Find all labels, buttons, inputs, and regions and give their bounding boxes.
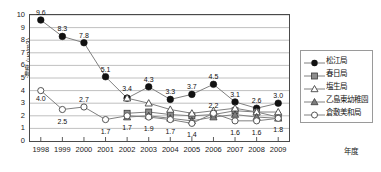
data-label-kurashiki-miwa: 2.2	[201, 102, 225, 109]
y-tick-label: 7	[9, 49, 25, 57]
legend-label: 倉敷美和局	[325, 108, 361, 117]
data-label-matsue: 4.5	[201, 73, 225, 80]
data-label-matsue: 3.0	[266, 92, 290, 99]
data-label-matsue: 3.7	[180, 83, 204, 90]
legend-open-circle-icon	[304, 107, 325, 119]
data-label-matsue: 3.1	[223, 91, 247, 98]
data-label-kurashiki-miwa: 1.4	[180, 131, 204, 138]
y-tick-label: 9	[9, 24, 25, 32]
chart-container: 濃度 (μg/m3) 012345678910 9.68.37.85.13.44…	[0, 0, 381, 172]
legend-filled-triangle-icon	[304, 94, 325, 106]
chart-legend: 松江局春日局塩生局乙島東幼稚園倉敷美和局	[300, 50, 373, 123]
data-label-kurashiki-miwa: 1.8	[266, 126, 290, 133]
legend-label: 春日局	[325, 69, 347, 78]
y-tick-label: 0	[9, 137, 25, 145]
y-tick-label: 5	[9, 74, 25, 82]
y-tick-label: 10	[9, 11, 25, 19]
y-tick-label: 1	[9, 124, 25, 132]
legend-open-triangle-icon	[304, 81, 325, 93]
legend-filled-square-icon	[304, 68, 325, 80]
data-label-kurashiki-miwa: 2.7	[72, 96, 96, 103]
legend-item[interactable]: 春日局	[304, 67, 368, 80]
legend-item[interactable]: 塩生局	[304, 80, 368, 93]
data-label-kurashiki-miwa: 1.6	[223, 129, 247, 136]
legend-label: 松江局	[325, 56, 347, 65]
legend-item[interactable]: 松江局	[304, 54, 368, 67]
y-tick-label: 4	[9, 87, 25, 95]
data-label-kurashiki-miwa: 1.9	[137, 125, 161, 132]
legend-label: 塩生局	[325, 82, 347, 91]
legend-label: 乙島東幼稚園	[325, 95, 368, 104]
data-label-kurashiki-miwa: 1.7	[115, 124, 139, 131]
legend-item[interactable]: 乙島東幼稚園	[304, 93, 368, 106]
data-label-kurashiki-miwa: 1.7	[94, 128, 118, 135]
data-label-matsue: 7.8	[72, 32, 96, 39]
data-label-matsue: 3.4	[115, 85, 139, 92]
data-label-matsue: 3.3	[158, 88, 182, 95]
y-tick-label: 6	[9, 61, 25, 69]
data-label-matsue: 5.1	[94, 66, 118, 73]
data-label-kurashiki-miwa: 1.7	[158, 128, 182, 135]
x-tick-label: 2009	[263, 145, 293, 154]
y-tick-label: 8	[9, 36, 25, 44]
data-label-matsue: 2.6	[245, 97, 269, 104]
data-label-matsue: 4.3	[137, 76, 161, 83]
data-label-kurashiki-miwa: 4.0	[29, 95, 53, 102]
y-tick-label: 2	[9, 112, 25, 120]
data-label-matsue: 9.6	[29, 9, 53, 16]
legend-item[interactable]: 倉敷美和局	[304, 106, 368, 119]
legend-filled-circle-icon	[304, 55, 325, 67]
data-label-kurashiki-miwa: 1.6	[245, 129, 269, 136]
x-axis-title: 年度	[344, 147, 358, 156]
data-label-kurashiki-miwa: 2.5	[50, 118, 74, 125]
data-label-matsue: 8.3	[50, 25, 74, 32]
y-tick-label: 3	[9, 99, 25, 107]
